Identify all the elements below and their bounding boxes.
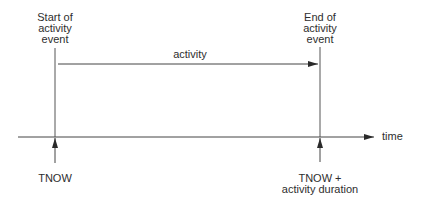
start-event-label-line3: event [25,34,85,45]
tnow-duration-label: TNOW + activity duration [270,173,370,195]
end-event-label: End of activity event [290,12,350,45]
end-event-label-line3: event [290,34,350,45]
tnow-duration-label-line2: activity duration [270,184,370,195]
activity-label: activity [160,49,220,60]
tnow-label-line1: TNOW [25,173,85,184]
start-event-label: Start of activity event [25,12,85,45]
tnow-label: TNOW [25,173,85,184]
time-axis-label: time [382,131,412,142]
